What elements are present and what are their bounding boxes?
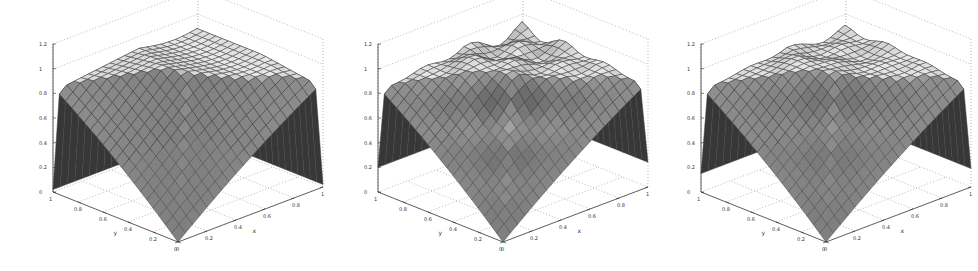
- x-tick-label: 0.6: [588, 213, 596, 219]
- z-tick-label: 0: [364, 189, 367, 195]
- z-tick-label: 1.2: [364, 41, 372, 47]
- surface-mesh: [53, 29, 323, 243]
- x-tick-label: 0.4: [234, 224, 242, 230]
- surface-plot-1: 00.20.40.60.8100.20.40.60.8100.20.40.60.…: [0, 0, 330, 271]
- x-tick-label: 1: [969, 191, 972, 197]
- z-tick-label: 0.8: [39, 90, 47, 96]
- x-tick-label: 0.4: [559, 224, 567, 230]
- surface-mesh: [378, 22, 648, 242]
- y-tick-label: 0.6: [747, 216, 755, 222]
- x-tick-label: 0.4: [882, 224, 890, 230]
- y-tick-label: 0.2: [149, 236, 157, 242]
- y-tick-label: 0.6: [99, 216, 107, 222]
- x-axis-label: x: [901, 227, 905, 234]
- surface-plot-3: 00.20.40.60.8100.20.40.60.8100.20.40.60.…: [648, 0, 978, 271]
- y-tick-label: 0.8: [399, 206, 407, 212]
- y-tick-label: 1: [374, 196, 377, 202]
- surface-plot-2: 00.20.40.60.8100.20.40.60.8100.20.40.60.…: [325, 0, 655, 271]
- plot-3-canvas: 00.20.40.60.8100.20.40.60.8100.20.40.60.…: [648, 0, 978, 271]
- x-tick-label: 0.8: [292, 202, 300, 208]
- x-tick-label: 1: [321, 191, 324, 197]
- z-tick-label: 0.4: [687, 140, 695, 146]
- y-tick-label: 1: [697, 196, 700, 202]
- z-tick-label: 0.8: [364, 90, 372, 96]
- x-tick-label: 0.8: [940, 202, 948, 208]
- z-tick-label: 1: [364, 66, 367, 72]
- z-tick-label: 0.2: [364, 164, 372, 170]
- surface-mesh: [701, 25, 971, 242]
- y-tick-label: 0: [174, 246, 177, 252]
- z-tick-label: 0.2: [687, 164, 695, 170]
- y-axis-label: y: [114, 229, 118, 237]
- x-axis-label: x: [253, 227, 257, 234]
- z-tick-label: 1: [687, 66, 690, 72]
- z-tick-label: 0.4: [39, 140, 47, 146]
- x-tick-label: 0.8: [617, 202, 625, 208]
- x-axis-label: x: [578, 227, 582, 234]
- z-tick-label: 0.2: [39, 164, 47, 170]
- x-tick-label: 0.6: [263, 213, 271, 219]
- y-tick-label: 0.8: [722, 206, 730, 212]
- y-tick-label: 0.2: [474, 236, 482, 242]
- y-tick-label: 0: [499, 246, 502, 252]
- z-tick-label: 0.6: [39, 115, 47, 121]
- y-tick-label: 0.4: [772, 226, 780, 232]
- z-tick-label: 0: [687, 189, 690, 195]
- z-tick-label: 0.4: [364, 140, 372, 146]
- x-tick-label: 0.2: [205, 235, 213, 241]
- z-tick-label: 0.6: [687, 115, 695, 121]
- z-tick-label: 0.8: [687, 90, 695, 96]
- x-tick-label: 0.2: [853, 235, 861, 241]
- x-tick-label: 0.6: [911, 213, 919, 219]
- y-tick-label: 0.2: [797, 236, 805, 242]
- x-tick-label: 0.2: [530, 235, 538, 241]
- y-tick-label: 0: [822, 246, 825, 252]
- z-tick-label: 1.2: [39, 41, 47, 47]
- z-tick-label: 1: [39, 66, 42, 72]
- y-tick-label: 0.8: [74, 206, 82, 212]
- z-tick-label: 1.2: [687, 41, 695, 47]
- y-tick-label: 1: [49, 196, 52, 202]
- plot-1-canvas: 00.20.40.60.8100.20.40.60.8100.20.40.60.…: [0, 0, 330, 271]
- y-tick-label: 0.4: [124, 226, 132, 232]
- plot-2-canvas: 00.20.40.60.8100.20.40.60.8100.20.40.60.…: [325, 0, 655, 271]
- y-axis-label: y: [439, 229, 443, 237]
- y-tick-label: 0.4: [449, 226, 457, 232]
- z-tick-label: 0.6: [364, 115, 372, 121]
- y-tick-label: 0.6: [424, 216, 432, 222]
- z-tick-label: 0: [39, 189, 42, 195]
- y-axis-label: y: [762, 229, 766, 237]
